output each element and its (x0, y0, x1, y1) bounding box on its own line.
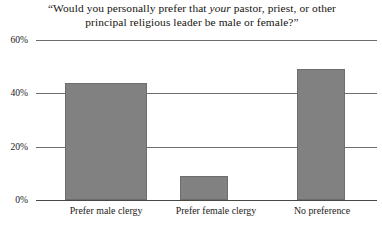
chart-title-line-2: principal religious leader be male or fe… (85, 16, 298, 28)
gridline-0 (36, 200, 377, 201)
y-axis-tick-label-0: 0% (0, 195, 28, 205)
y-axis-tick-label-60: 60% (0, 35, 28, 45)
chart-title-text-pre: “Would you personally prefer that (48, 2, 210, 14)
chart-title: “Would you personally prefer that your p… (22, 1, 362, 29)
x-axis-label-3: No preference (262, 205, 382, 217)
chart-title-text-post: pastor, priest, or other (231, 2, 336, 14)
bar-3 (297, 69, 345, 200)
chart-title-emphasis: your (210, 2, 231, 14)
bar-2 (180, 176, 228, 200)
y-axis-tick-label-20: 20% (0, 142, 28, 152)
bar-1 (65, 83, 147, 200)
gridline-60 (36, 40, 377, 41)
plot-area: 0%20%40%60% (36, 40, 377, 200)
chart-title-line-1: “Would you personally prefer that your p… (48, 2, 336, 14)
y-axis-tick-label-40: 40% (0, 88, 28, 98)
